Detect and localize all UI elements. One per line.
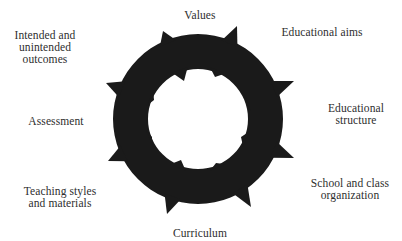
node-curriculum: Curriculum — [173, 227, 227, 239]
node-label-line: outcomes — [15, 53, 76, 65]
node-label-line: Assessment — [28, 115, 83, 127]
node-label-line: Teaching styles — [24, 185, 97, 197]
ring-band — [113, 34, 283, 204]
node-label-line: and materials — [24, 197, 97, 209]
node-label-line: structure — [328, 114, 384, 126]
node-label-line: Curriculum — [173, 227, 227, 239]
node-label-line: unintended — [15, 41, 76, 53]
node-label-line: Values — [184, 9, 215, 21]
spiked-ring — [106, 26, 294, 214]
node-educational-aims: Educational aims — [281, 26, 362, 38]
node-label-line: organization — [311, 189, 389, 201]
node-assessment: Assessment — [28, 115, 83, 127]
node-educational-structure: Educational structure — [328, 102, 384, 126]
node-label-line: Educational — [328, 102, 384, 114]
node-label-line: School and class — [311, 177, 389, 189]
node-school-class-organization: School and class organization — [311, 177, 389, 201]
node-label-line: Educational aims — [281, 26, 362, 38]
node-teaching-styles-materials: Teaching styles and materials — [24, 185, 97, 209]
node-values: Values — [184, 9, 215, 21]
node-outcomes: Intended and unintended outcomes — [15, 29, 76, 65]
node-label-line: Intended and — [15, 29, 76, 41]
